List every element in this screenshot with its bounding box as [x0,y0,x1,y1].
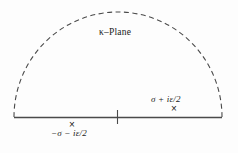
pole-left-label: −σ − iε/2 [51,129,87,138]
pole-right-marker-icon: × [171,104,177,114]
plane-label: κ–Plane [99,28,131,38]
kappa-plane-contour-figure: κ–Plane σ + iε/2 × × −σ − iε/2 [0,0,238,153]
contour-diagram [0,0,238,153]
